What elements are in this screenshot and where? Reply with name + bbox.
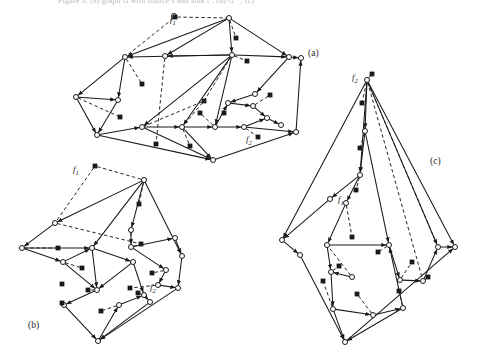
circle-node [251,104,256,109]
solid-edge [246,119,264,126]
circle-node [213,125,218,130]
face-label-c-f1: f1 [338,194,344,206]
face-label-b-f2: f2 [150,282,156,294]
face-label-b-f1: f1 [73,164,79,176]
solid-edge [231,19,286,55]
solid-edge [178,259,181,285]
circle-node [344,201,349,206]
circle-node [325,243,330,248]
square-node [350,235,355,240]
face-label-a-f1: f1 [170,14,176,26]
circle-node [280,238,285,243]
circle-node [401,306,406,311]
solid-edge [94,249,130,261]
square-node [370,72,375,77]
solid-edge [284,242,298,253]
square-node [268,93,273,98]
solid-edge [235,55,286,57]
circle-node [163,54,168,59]
solid-edge [336,309,370,314]
square-node [321,279,326,284]
dashed-edge [358,296,371,313]
solid-edge [301,257,343,339]
circle-node [129,228,134,233]
solid-edge [247,127,293,131]
square-node [154,142,159,147]
solid-edge [133,248,163,268]
circle-node [116,98,121,103]
circle-node [371,313,376,318]
square-nodes-layer [56,15,431,314]
circle-node [74,95,79,100]
square-node [245,59,250,64]
circle-node [95,133,100,138]
circle-node [265,116,270,121]
solid-edge [121,296,141,304]
square-node [80,266,85,271]
solid-edge [255,108,265,116]
square-node [118,115,123,120]
solid-edge [168,19,227,54]
circle-node [53,221,58,226]
dashed-edge [78,98,118,116]
square-node [234,36,239,41]
square-node [337,264,342,269]
solid-edge [161,285,175,287]
solid-edge [176,240,181,253]
dashed-edge [177,17,226,18]
solid-edge [184,129,211,158]
solid-edge [99,102,117,132]
circle-node [436,245,441,250]
square-node [360,101,365,106]
solid-edge [331,275,333,306]
solid-edge [283,82,365,237]
circle-node [331,307,336,312]
dashed-edge [154,271,163,273]
circle-node [298,253,303,258]
circle-node [176,286,181,291]
solid-edge [146,297,148,300]
figure-root: Figure 3. (a) graph G with source s and … [0,0,477,358]
circle-node [142,178,147,183]
square-node [136,291,141,296]
solid-edge [284,201,328,238]
circle-node [142,293,147,298]
dashed-edge [333,267,337,270]
circle-node [329,270,334,275]
circle-node [180,254,185,259]
circle-node [350,275,355,280]
solid-edge [168,55,229,56]
square-node [139,242,144,247]
circle-node [328,197,333,202]
face-label-c-f2: f2 [352,72,358,84]
panel-label-c: (c) [430,156,441,166]
solid-edge [77,99,95,132]
solid-edge [231,103,250,105]
solid-edge [328,205,345,242]
solid-edge [390,247,399,277]
solid-edge [231,95,253,102]
circle-node [453,245,458,250]
square-node [222,111,227,116]
circle-node [61,260,66,265]
square-node [137,202,142,207]
solid-edge [159,272,164,282]
circle-node [294,130,299,135]
circle-node [387,243,392,248]
solid-edge [144,57,230,126]
circle-node [287,55,292,60]
circle-node [96,339,101,344]
solid-edge [100,128,139,135]
circle-node [156,283,161,288]
dashed-edge [346,205,351,234]
square-node [358,146,363,151]
solid-edge [100,304,148,340]
circle-node [140,125,145,130]
solid-edge [78,59,123,95]
square-node [376,250,381,255]
circle-node [358,173,363,178]
figure-canvas [0,0,477,358]
solid-edge [229,21,232,52]
circle-node [117,303,122,308]
solid-edge [327,248,330,269]
